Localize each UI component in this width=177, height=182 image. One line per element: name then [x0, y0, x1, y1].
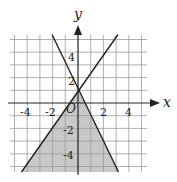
origin-label: O — [66, 102, 76, 116]
x-axis-arrow-icon — [150, 99, 160, 107]
x-tick-label: 2 — [100, 106, 107, 119]
y-tick-label: 4 — [68, 51, 75, 64]
x-axis-label: x — [163, 94, 171, 110]
coordinate-graph: y x O -4 -2 2 4 4 2 -2 -4 — [0, 0, 177, 182]
y-tick-label: 2 — [68, 75, 75, 88]
y-tick-label: -2 — [63, 124, 74, 137]
x-tick-label: -4 — [20, 106, 31, 119]
y-axis-arrow-icon — [74, 25, 82, 35]
x-tick-label: -2 — [45, 106, 56, 119]
y-axis-label: y — [73, 6, 83, 22]
y-tick-label: -4 — [63, 149, 74, 162]
x-tick-label: 4 — [125, 106, 132, 119]
